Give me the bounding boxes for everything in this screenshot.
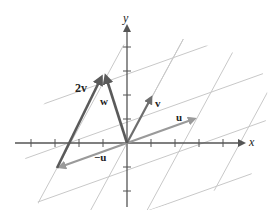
skew-grid	[0, 0, 269, 217]
axes	[15, 26, 244, 207]
vector-diagram	[0, 0, 269, 217]
vector-w	[106, 77, 127, 143]
label-w: w	[100, 96, 108, 107]
label-u: u	[176, 112, 182, 123]
label-2v: 2v	[75, 82, 87, 94]
x-axis-label: x	[249, 136, 254, 148]
y-axis-label: y	[123, 12, 128, 24]
label-neg-u: −u	[94, 152, 106, 163]
label-v: v	[155, 98, 161, 109]
